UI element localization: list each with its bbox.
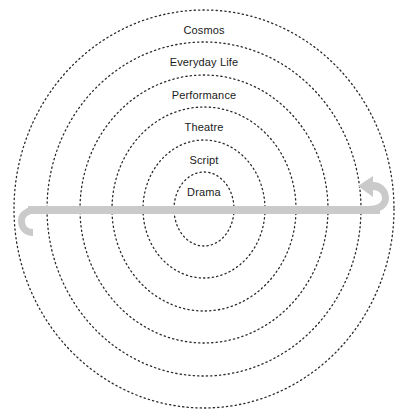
arrow-shaft — [28, 206, 380, 214]
ring-label-script: Script — [186, 154, 221, 166]
diagram-canvas: Cosmos Everyday Life Performance Theatre… — [0, 0, 408, 418]
ring-label-theatre: Theatre — [182, 121, 227, 133]
bidirectional-arrow — [18, 176, 389, 236]
ring-label-performance: Performance — [169, 89, 240, 101]
ring-label-everyday-life: Everyday Life — [167, 56, 242, 68]
ring-label-cosmos: Cosmos — [180, 24, 227, 36]
arrow-left-hook-icon — [18, 206, 40, 236]
ring-label-drama: Drama — [184, 186, 224, 198]
